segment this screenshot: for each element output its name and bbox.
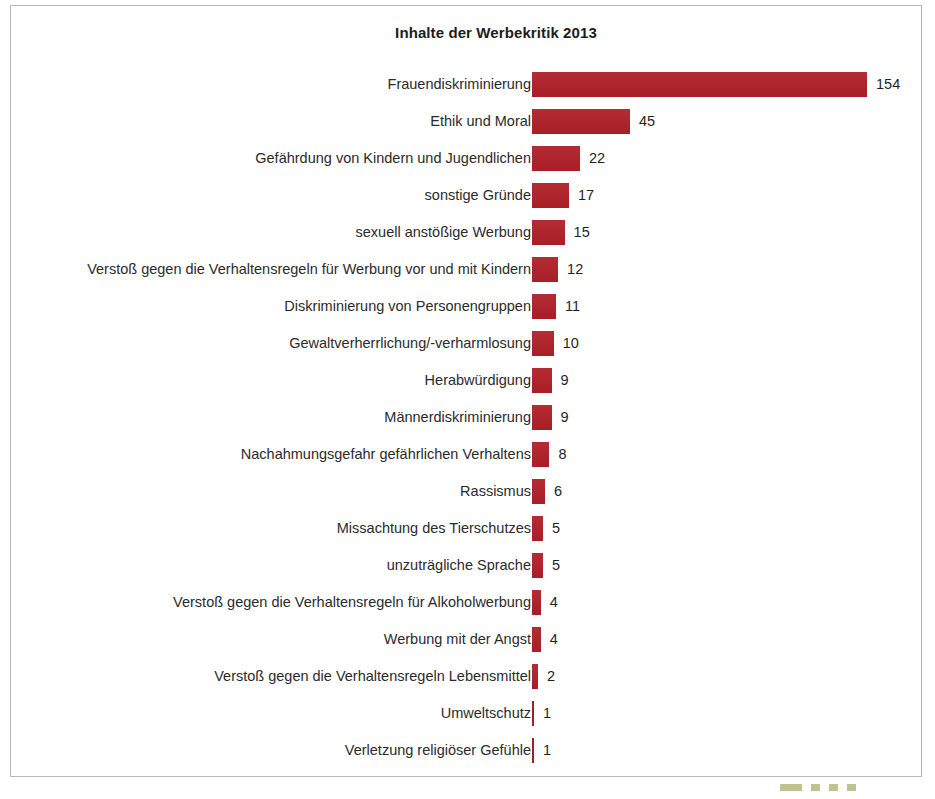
bar-row: sexuell anstößige Werbung15 [11,220,923,257]
bar-and-value: 11 [532,294,580,319]
bar-row: Diskriminierung von Personengruppen11 [11,294,923,331]
bar-and-value: 12 [532,257,583,282]
bar-row: Männerdiskriminierung9 [11,405,923,442]
category-label: Gewaltverherrlichung/-verharmlosung [289,331,531,356]
category-label: Gefährdung von Kindern und Jugendlichen [255,146,531,171]
bar[interactable] [532,553,543,578]
bar-value-label: 22 [589,146,605,171]
bar[interactable] [532,516,543,541]
category-label: Verstoß gegen die Verhaltensregeln für W… [87,257,531,282]
bar-value-label: 11 [565,294,580,319]
bar[interactable] [532,701,534,726]
bar[interactable] [532,590,541,615]
bar-value-label: 6 [554,479,562,504]
bar-row: Verstoß gegen die Verhaltensregeln Leben… [11,664,923,701]
bar[interactable] [532,479,545,504]
footer-artifact [780,784,930,796]
bar-value-label: 1 [543,738,551,763]
bar-and-value: 6 [532,479,562,504]
bar-row: Umweltschutz1 [11,701,923,738]
bar[interactable] [532,220,565,245]
bar-and-value: 17 [532,183,594,208]
category-label: Rassismus [460,479,531,504]
bar-row: Nachahmungsgefahr gefährlichen Verhalten… [11,442,923,479]
bar-row: Gewaltverherrlichung/-verharmlosung10 [11,331,923,368]
bar-value-label: 4 [550,590,558,615]
bar-row: Ethik und Moral45 [11,109,923,146]
bar[interactable] [532,405,552,430]
bar-and-value: 8 [532,442,566,467]
bar[interactable] [532,368,552,393]
bar[interactable] [532,442,549,467]
chart-title: Inhalte der Werbekritik 2013 [11,24,921,41]
bar-and-value: 5 [532,553,560,578]
footer-mark-3 [829,784,838,791]
category-label: Umweltschutz [441,701,531,726]
category-label: Ethik und Moral [430,109,531,134]
bar-value-label: 8 [558,442,566,467]
bar-value-label: 1 [543,701,551,726]
bar-and-value: 4 [532,627,558,652]
bar-value-label: 154 [876,72,900,97]
category-label: Nachahmungsgefahr gefährlichen Verhalten… [241,442,531,467]
bar[interactable] [532,146,580,171]
bar-row: sonstige Gründe17 [11,183,923,220]
category-label: Missachtung des Tierschutzes [337,516,531,541]
bar[interactable] [532,257,558,282]
bar-value-label: 10 [563,331,579,356]
bar-and-value: 1 [532,701,551,726]
bar[interactable] [532,72,867,97]
bar[interactable] [532,627,541,652]
category-label: Frauendiskriminierung [388,72,531,97]
category-label: sonstige Gründe [425,183,531,208]
bar[interactable] [532,183,569,208]
bar-value-label: 5 [552,516,560,541]
bar-row: unzuträgliche Sprache5 [11,553,923,590]
bar[interactable] [532,294,556,319]
bar-chart-plot-area: Frauendiskriminierung154Ethik und Moral4… [11,72,923,775]
bar-and-value: 154 [532,72,900,97]
footer-mark-4 [847,784,856,791]
chart-frame: Inhalte der Werbekritik 2013 Frauendiskr… [10,5,922,777]
bar-and-value: 9 [532,368,569,393]
bar-value-label: 15 [574,220,590,245]
bar-and-value: 4 [532,590,558,615]
bar-value-label: 45 [639,109,655,134]
bar-value-label: 17 [578,183,594,208]
category-label: Werbung mit der Angst [384,627,531,652]
bar[interactable] [532,738,534,763]
bar-value-label: 9 [561,368,569,393]
bar-and-value: 9 [532,405,569,430]
bar-value-label: 9 [561,405,569,430]
bar-row: Verletzung religiöser Gefühle1 [11,738,923,775]
bar-and-value: 5 [532,516,560,541]
category-label: Diskriminierung von Personengruppen [284,294,531,319]
bar-row: Gefährdung von Kindern und Jugendlichen2… [11,146,923,183]
bar[interactable] [532,664,538,689]
bar-row: Herabwürdigung9 [11,368,923,405]
bar-and-value: 2 [532,664,555,689]
category-label: Verstoß gegen die Verhaltensregeln für A… [173,590,531,615]
bar-value-label: 12 [567,257,583,282]
bar[interactable] [532,109,630,134]
category-label: Herabwürdigung [425,368,531,393]
bar-value-label: 2 [547,664,555,689]
bar[interactable] [532,331,554,356]
bar-and-value: 10 [532,331,579,356]
bar-and-value: 1 [532,738,551,763]
bar-and-value: 45 [532,109,655,134]
category-label: sexuell anstößige Werbung [356,220,531,245]
bar-row: Verstoß gegen die Verhaltensregeln für A… [11,590,923,627]
bar-row: Missachtung des Tierschutzes5 [11,516,923,553]
footer-mark-2 [811,784,820,791]
footer-mark-1 [780,784,802,791]
category-label: unzuträgliche Sprache [387,553,531,578]
bar-and-value: 15 [532,220,590,245]
bar-row: Rassismus6 [11,479,923,516]
bar-value-label: 5 [552,553,560,578]
bar-and-value: 22 [532,146,605,171]
bar-row: Verstoß gegen die Verhaltensregeln für W… [11,257,923,294]
bar-row: Werbung mit der Angst4 [11,627,923,664]
category-label: Verletzung religiöser Gefühle [345,738,531,763]
bar-value-label: 4 [550,627,558,652]
